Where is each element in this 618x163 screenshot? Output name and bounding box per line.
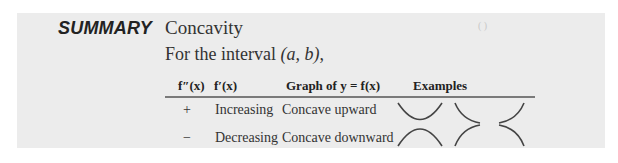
section-title: Concavity [165,17,243,39]
summary-label: SUMMARY [58,18,152,39]
interval-intro: For the interval (a, b), [165,44,324,65]
concave-down-decreasing-icon [497,118,527,148]
concave-down-increasing-icon [452,118,482,148]
row2-first-derivative: Decreasing [215,130,278,146]
intro-punctuation: , [319,44,324,64]
row1-sign: + [183,102,191,118]
intro-text: For the interval [165,44,280,64]
header-examples: Examples [413,78,467,94]
header-second-derivative: f″(x) [178,78,205,94]
header-graph: Graph of y = f(x) [286,78,380,94]
faint-mark: ( ) [478,20,487,31]
row1-graph: Concave upward [282,102,376,118]
row2-graph: Concave downward [282,130,394,146]
row2-sign: − [183,130,191,146]
interval-notation: (a, b) [280,44,319,64]
concave-down-hill-icon [395,118,445,148]
row1-first-derivative: Increasing [215,102,273,118]
header-first-derivative: f′(x) [214,78,237,94]
